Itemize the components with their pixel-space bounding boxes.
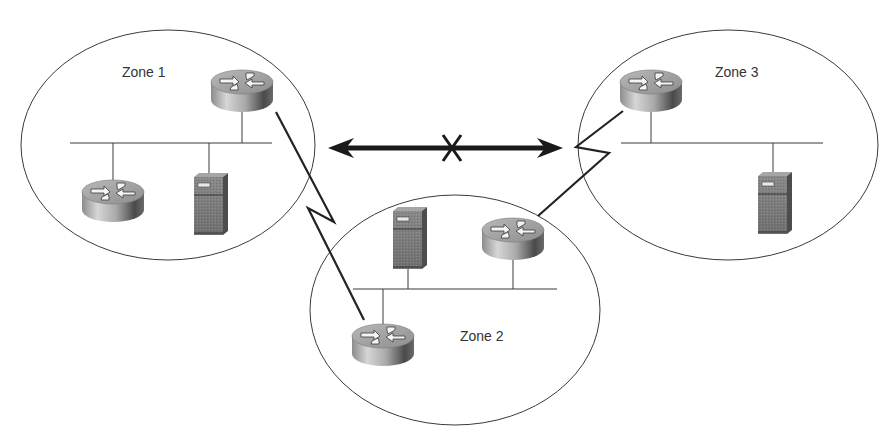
zone3-border-router-router-icon [620,70,682,143]
zone1-boundary [21,30,315,260]
serial-link-zone1-zone2 [276,112,364,320]
zone1-server-server-icon [194,143,228,235]
zone-1-label: Zone 1 [122,64,166,80]
zone-3-label: Zone 3 [715,64,759,80]
zone2-router-to-zone3-router-icon [482,218,544,289]
zone-2-label: Zone 2 [460,328,504,344]
zone1-internal-router-router-icon [82,143,144,222]
zone1-border-router-router-icon [211,70,273,143]
zone3-server-server-icon [758,143,792,234]
zone2-group [310,195,600,425]
network-zone-diagram: Zone 1 Zone 2 Zone 3 [0,0,889,428]
zone1-group [21,30,315,260]
zone2-server-server-icon [393,207,427,289]
blocked-direct-path-zone1-zone3 [328,135,563,161]
zone2-boundary [310,195,600,425]
serial-link-zone3-zone2 [538,111,623,216]
zone2-router-to-zone1-router-icon [352,289,414,366]
